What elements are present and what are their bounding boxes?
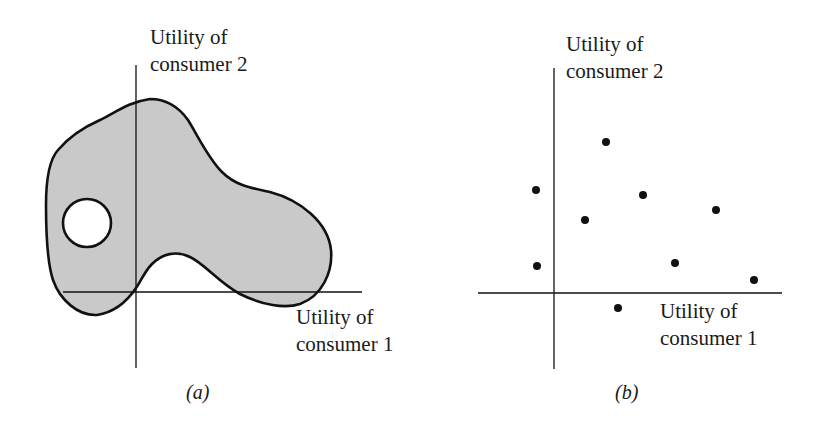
utility-point — [532, 186, 540, 194]
label-line: consumer 1 — [660, 325, 757, 352]
label-line: consumer 2 — [566, 58, 663, 85]
label-line: consumer 1 — [296, 331, 393, 358]
panel-a-x-axis-label: Utility of consumer 1 — [296, 304, 393, 358]
utility-point — [581, 216, 589, 224]
utility-possibility-region — [46, 99, 331, 315]
panel-b-x-axis-label: Utility of consumer 1 — [660, 298, 757, 352]
panel-b-y-axis-label: Utility of consumer 2 — [566, 31, 663, 85]
utility-point — [602, 138, 610, 146]
utility-point — [750, 276, 758, 284]
panel-b-caption: (b) — [615, 381, 638, 404]
label-line: Utility of — [296, 304, 393, 331]
utility-point — [614, 304, 622, 312]
utility-point — [533, 262, 541, 270]
label-line: Utility of — [150, 24, 247, 51]
diagram-canvas — [0, 0, 825, 432]
panel-a-y-axis-label: Utility of consumer 2 — [150, 24, 247, 78]
utility-points — [532, 138, 758, 312]
label-line: Utility of — [566, 31, 663, 58]
panel-a-caption: (a) — [186, 381, 209, 404]
figure: Utility of consumer 2 Utility of consume… — [0, 0, 825, 432]
utility-point — [712, 206, 720, 214]
label-line: Utility of — [660, 298, 757, 325]
utility-point — [671, 259, 679, 267]
utility-point — [639, 191, 647, 199]
label-line: consumer 2 — [150, 51, 247, 78]
